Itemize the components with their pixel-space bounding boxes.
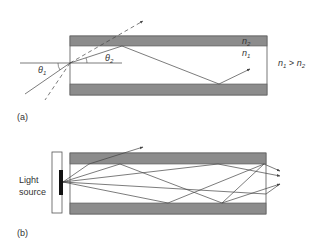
theta1-label: θ1 — [38, 65, 46, 76]
top-cladding-b — [70, 153, 266, 164]
panel-a-label: (a) — [17, 112, 28, 122]
acceptance-cone-lower — [45, 63, 70, 100]
light-source-label-2: source — [19, 187, 46, 197]
optical-fiber-diagram: θ1 θ2 n2 n1 n1 > n2 (a) Light source (b) — [0, 0, 322, 248]
top-cladding-a — [70, 36, 267, 46]
panel-a: θ1 θ2 n2 n1 n1 > n2 (a) — [17, 21, 306, 122]
panel-b: Light source (b) — [17, 147, 280, 238]
light-source-label: Light — [19, 175, 39, 185]
incident-ray — [25, 63, 70, 94]
theta1-arc — [58, 63, 60, 70]
bottom-cladding-a — [70, 84, 267, 95]
bottom-cladding-b — [70, 203, 266, 214]
index-condition-label: n1 > n2 — [278, 58, 306, 69]
light-source-emitter — [59, 170, 63, 195]
panel-b-label: (b) — [17, 228, 28, 238]
